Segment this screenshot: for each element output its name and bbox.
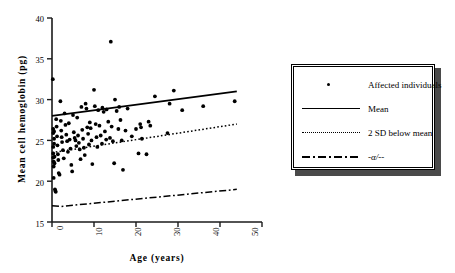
- data-point: [110, 125, 114, 129]
- data-point: [166, 131, 170, 135]
- data-point: [121, 168, 125, 172]
- data-point: [68, 138, 72, 142]
- data-point: [56, 152, 60, 156]
- filled-circle-marker-icon: [327, 83, 330, 86]
- data-point: [74, 144, 78, 148]
- data-point: [106, 120, 110, 124]
- data-point: [126, 107, 130, 111]
- data-point: [51, 145, 55, 149]
- data-point: [130, 134, 134, 138]
- legend-entry-mean: Mean: [292, 97, 434, 121]
- legend-box: Affected individuals Mean 2 SD below mea…: [291, 64, 435, 170]
- line-solid: [52, 91, 237, 115]
- legend-label-mean: Mean: [368, 97, 389, 121]
- data-point: [140, 137, 144, 141]
- legend-label-affected-individuals: Affected individuals: [368, 73, 442, 97]
- legend-entry-genotype: -α/--: [292, 145, 434, 169]
- data-point: [63, 112, 67, 116]
- data-point: [55, 125, 59, 129]
- data-point: [99, 134, 103, 138]
- data-point: [80, 105, 84, 109]
- data-point: [89, 126, 93, 130]
- data-point: [81, 137, 85, 141]
- legend-key-solid-line: [300, 97, 362, 121]
- data-point: [95, 145, 99, 149]
- solid-line-icon: [302, 108, 360, 109]
- data-point: [134, 127, 138, 131]
- legend-key-marker: [300, 73, 362, 97]
- data-point: [87, 143, 91, 147]
- data-point: [55, 134, 59, 138]
- data-point: [52, 165, 56, 169]
- data-point: [96, 108, 100, 112]
- data-point: [60, 140, 64, 144]
- data-point: [124, 129, 128, 133]
- data-point: [94, 122, 98, 126]
- data-point: [137, 152, 141, 156]
- data-point: [138, 122, 142, 126]
- data-point: [147, 120, 151, 124]
- data-point: [77, 141, 81, 145]
- dotted-line-icon: [302, 132, 360, 133]
- data-point: [69, 147, 73, 151]
- data-point: [120, 139, 124, 143]
- data-point: [95, 135, 99, 139]
- data-point: [58, 173, 62, 177]
- data-point: [90, 139, 94, 143]
- data-point: [56, 143, 60, 147]
- data-point: [75, 116, 79, 120]
- line-dash-dot: [52, 189, 237, 206]
- data-point: [201, 104, 205, 108]
- data-points: [51, 40, 237, 194]
- data-point: [84, 102, 88, 106]
- data-point: [98, 124, 102, 128]
- data-point: [145, 152, 149, 156]
- legend-entry-2sd-below-mean: 2 SD below mean: [292, 121, 434, 145]
- data-point: [233, 99, 237, 103]
- legend-key-dashdot-line: [300, 145, 362, 169]
- data-point: [76, 134, 80, 138]
- data-point: [117, 105, 121, 109]
- data-point: [88, 121, 92, 125]
- data-point: [51, 152, 55, 156]
- data-point: [86, 132, 90, 136]
- data-point: [67, 121, 71, 125]
- data-point: [104, 138, 108, 142]
- legend-label-2sd-below-mean: 2 SD below mean: [368, 121, 432, 145]
- data-point: [66, 150, 70, 154]
- data-point: [64, 133, 68, 137]
- data-point: [62, 156, 66, 160]
- data-point: [109, 40, 113, 44]
- data-point: [60, 135, 64, 139]
- data-point: [105, 107, 109, 111]
- data-point: [108, 136, 112, 140]
- data-point: [54, 117, 58, 121]
- data-point: [59, 129, 63, 133]
- data-point: [59, 119, 63, 123]
- data-point: [72, 130, 76, 134]
- data-point: [112, 161, 116, 165]
- data-point: [148, 124, 152, 128]
- data-point: [115, 109, 119, 113]
- data-point: [101, 106, 105, 110]
- data-point: [51, 77, 55, 81]
- data-point: [74, 139, 78, 143]
- data-point: [153, 94, 157, 98]
- legend-entry-affected-individuals: Affected individuals: [292, 73, 434, 97]
- data-point: [168, 102, 172, 106]
- data-point: [85, 125, 89, 129]
- data-point: [54, 190, 58, 194]
- legend-label-genotype: -α/--: [368, 145, 384, 169]
- axis-lines: [52, 18, 262, 222]
- dash-dot-line-icon: [302, 156, 360, 158]
- data-point: [113, 98, 117, 102]
- data-point: [52, 142, 56, 146]
- data-point: [92, 88, 96, 92]
- data-point: [103, 130, 107, 134]
- legend: Affected individuals Mean 2 SD below mea…: [291, 64, 437, 172]
- data-point: [52, 176, 56, 180]
- data-point: [53, 161, 57, 165]
- data-point: [78, 147, 82, 151]
- data-point: [61, 148, 65, 152]
- data-point: [93, 104, 97, 108]
